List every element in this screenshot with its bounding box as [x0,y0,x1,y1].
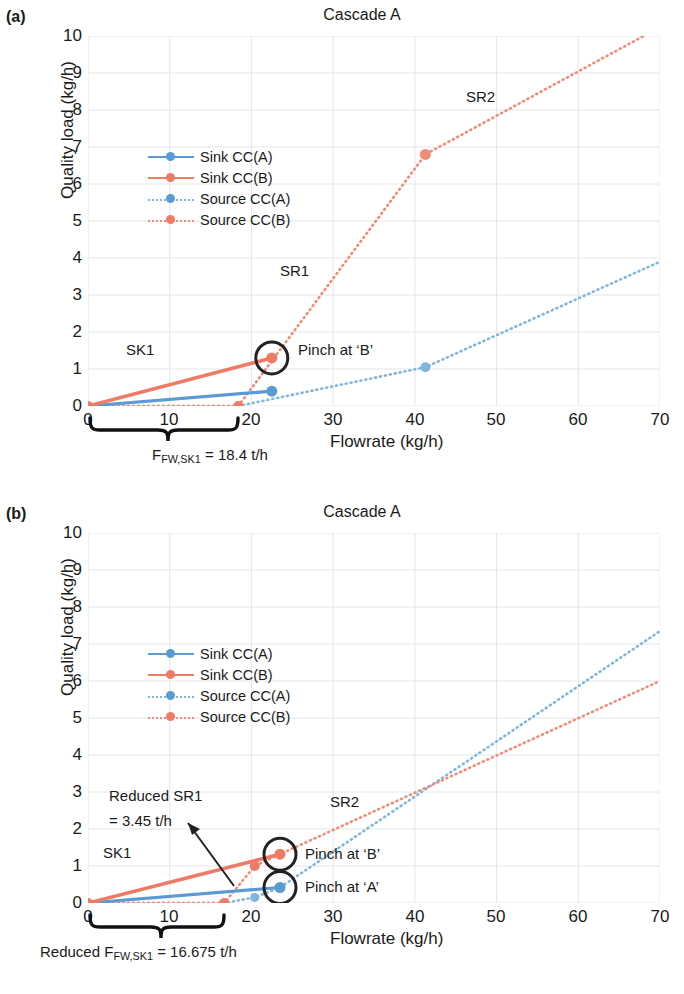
x-tick: 50 [476,907,516,927]
y-tick: 6 [42,174,82,194]
brace-label-suffix: = 18.4 t/h [201,446,268,463]
y-tick: 6 [42,671,82,691]
legend-item-sink-cc-a: Sink CC(A) [148,146,290,167]
brace-label-subscript: FW,SK1 [113,950,153,962]
legend-item-source-cc-b: Source CC(B) [148,706,290,727]
y-tick: 1 [42,359,82,379]
x-tick: 60 [558,410,598,430]
annotation-sr2: SR2 [330,793,359,810]
legend-key-icon [148,647,194,661]
brace-label-subscript: FW,SK1 [161,453,201,465]
panel-b-title: Cascade A [0,503,684,521]
panel-a-brace [88,414,288,448]
panel-b-brace [88,911,278,945]
legend-key-icon [148,150,194,164]
x-tick: 30 [313,410,353,430]
panel-a-y-ticks: 10 9 8 7 6 5 4 3 2 1 0 [36,36,82,406]
y-tick: 2 [42,819,82,839]
x-tick: 60 [558,907,598,927]
legend-key-icon [148,710,194,724]
y-tick: 9 [42,560,82,580]
legend-item-source-cc-a: Source CC(A) [148,188,290,209]
panel-a-x-axis-label: Flowrate (kg/h) [330,432,443,452]
x-tick: 70 [640,907,680,927]
y-tick: 1 [42,856,82,876]
panel-a-brace-label: FFW,SK1 = 18.4 t/h [152,446,268,465]
annotation-pinch-b: Pinch at ‘B’ [305,845,380,862]
annotation-sr1: SR1 [280,262,309,279]
x-tick: 50 [476,410,516,430]
panel-b-brace-label: Reduced FFW,SK1 = 16.675 t/h [40,943,237,962]
legend-key-icon [148,668,194,682]
y-tick: 8 [42,100,82,120]
y-tick: 10 [42,523,82,543]
figure-panel-a: (a) Cascade A Quality load (kg/h) 10 9 8… [0,0,684,497]
annotation-reduced-sr1-line2: = 3.45 t/h [109,812,172,829]
panel-b-x-axis-label: Flowrate (kg/h) [330,929,443,949]
y-tick: 9 [42,63,82,83]
panel-a-legend: Sink CC(A) Sink CC(B) Source CC(A) Sourc… [148,146,290,230]
y-tick: 8 [42,597,82,617]
legend-label: Sink CC(B) [200,667,273,683]
y-tick: 3 [42,285,82,305]
legend-item-source-cc-a: Source CC(A) [148,685,290,706]
legend-key-icon [148,213,194,227]
legend-key-icon [148,192,194,206]
figure-panel-b: (b) Cascade A Quality load (kg/h) 10 9 8… [0,497,684,994]
legend-key-icon [148,689,194,703]
y-tick: 4 [42,248,82,268]
x-tick: 30 [313,907,353,927]
legend-label: Source CC(A) [200,688,290,704]
legend-label: Source CC(B) [200,709,290,725]
annotation-pinch-b: Pinch at ‘B’ [298,341,373,358]
panel-a-title: Cascade A [0,6,684,24]
y-tick: 3 [42,782,82,802]
brace-label-suffix: = 16.675 t/h [153,943,237,960]
panel-b-y-ticks: 10 9 8 7 6 5 4 3 2 1 0 [36,533,82,903]
legend-label: Source CC(A) [200,191,290,207]
legend-label: Source CC(B) [200,212,290,228]
annotation-pinch-a: Pinch at ‘A’ [305,878,379,895]
legend-label: Sink CC(B) [200,170,273,186]
y-tick: 7 [42,634,82,654]
x-tick: 40 [395,410,435,430]
y-tick: 5 [42,211,82,231]
y-tick: 2 [42,322,82,342]
y-tick: 5 [42,708,82,728]
annotation-sr2: SR2 [466,88,495,105]
brace-label-prefix: F [152,446,161,463]
annotation-sk1: SK1 [103,844,131,861]
legend-item-sink-cc-a: Sink CC(A) [148,643,290,664]
panel-b-legend: Sink CC(A) Sink CC(B) Source CC(A) Sourc… [148,643,290,727]
annotation-reduced-sr1-line1: Reduced SR1 [109,787,202,804]
legend-label: Sink CC(A) [200,149,273,165]
y-tick: 10 [42,26,82,46]
x-tick: 40 [395,907,435,927]
y-tick: 7 [42,137,82,157]
brace-label-prefix: Reduced F [40,943,113,960]
legend-item-source-cc-b: Source CC(B) [148,209,290,230]
y-tick: 4 [42,745,82,765]
legend-item-sink-cc-b: Sink CC(B) [148,167,290,188]
annotation-sk1: SK1 [126,341,154,358]
x-tick: 70 [640,410,680,430]
legend-label: Sink CC(A) [200,646,273,662]
legend-key-icon [148,171,194,185]
legend-item-sink-cc-b: Sink CC(B) [148,664,290,685]
